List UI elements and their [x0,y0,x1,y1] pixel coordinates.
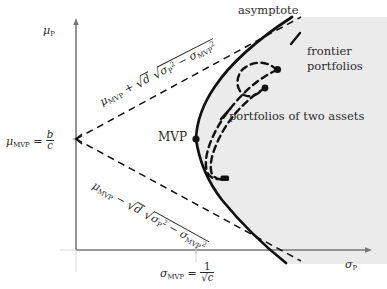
point-asset-lower [221,176,230,182]
x-axis-label: σP [345,259,357,272]
point-asset-middle [262,85,269,92]
x-tick-fraction: 1 √c [200,262,214,284]
x-tick-equals: = [188,267,197,280]
point-mvp [192,135,199,142]
figure-canvas: μP σP μMVP = b c σMVP = 1 √c asymptote f… [0,0,387,289]
y-axis-label: μP [43,25,55,38]
mvp-point-label: MVP [158,131,187,144]
y-tick-equals: = [33,135,42,148]
y-tick-fraction: b c [46,130,54,152]
y-tick-label-mu-mvp: μMVP = b c [6,130,54,152]
frontier-portfolios-line2: portfolios [307,59,363,73]
asymptote-label: asymptote [238,4,299,16]
point-asset-upper [274,66,281,73]
x-tick-label-sigma-mvp: σMVP = 1 √c [160,262,214,284]
frontier-portfolios-label: frontier portfolios [307,44,363,74]
upper-formula-operator: + [122,80,136,96]
two-assets-label: portfolios of two assets [229,110,364,122]
frontier-portfolios-line1: frontier [307,44,352,58]
